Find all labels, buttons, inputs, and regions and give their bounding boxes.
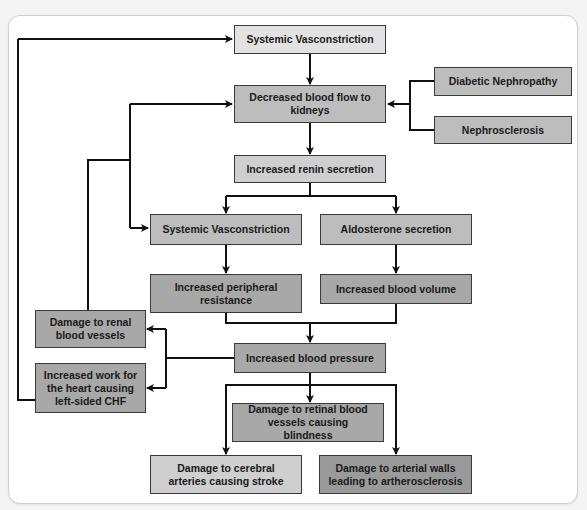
node-nephrosclerosis: Nephrosclerosis <box>434 116 572 144</box>
node-heart-work-chf: Increased work for the heart causing lef… <box>35 363 146 413</box>
node-label: Nephrosclerosis <box>462 124 544 137</box>
node-label: Increased work for the heart causing lef… <box>43 369 139 408</box>
node-label: Increased renin secretion <box>246 163 373 176</box>
node-cerebral-damage: Damage to cerebral arteries causing stro… <box>150 455 302 494</box>
node-label: Damage to cerebral arteries causing stro… <box>166 462 286 488</box>
node-label: Increased peripheral resistance <box>171 281 281 307</box>
node-blood-pressure: Increased blood pressure <box>234 343 386 373</box>
node-label: Systemic Vasconstriction <box>162 223 289 236</box>
node-label: Systemic Vasconstriction <box>246 33 373 46</box>
node-systemic-vasoconstriction-top: Systemic Vasconstriction <box>234 25 386 54</box>
node-arterial-damage: Damage to arterial walls leading to arth… <box>319 455 472 494</box>
node-decreased-blood-flow: Decreased blood flow to kidneys <box>234 85 386 123</box>
node-label: Damage to renal blood vessels <box>46 316 136 342</box>
node-label: Increased blood pressure <box>246 352 374 365</box>
node-systemic-vasoconstriction-mid: Systemic Vasconstriction <box>150 214 302 245</box>
node-diabetic-nephropathy: Diabetic Nephropathy <box>434 67 572 96</box>
node-label: Increased blood volume <box>336 283 456 296</box>
node-renal-vessel-damage: Damage to renal blood vessels <box>35 310 146 348</box>
node-label: Damage to retinal blood vessels causing … <box>243 403 373 442</box>
node-label: Damage to arterial walls leading to arth… <box>326 462 466 488</box>
node-blood-volume: Increased blood volume <box>320 274 472 304</box>
node-aldosterone: Aldosterone secretion <box>320 214 472 245</box>
node-increased-renin: Increased renin secretion <box>234 155 386 183</box>
node-label: Decreased blood flow to kidneys <box>239 91 381 117</box>
node-peripheral-resistance: Increased peripheral resistance <box>150 274 302 313</box>
node-label: Diabetic Nephropathy <box>449 75 558 88</box>
node-retinal-damage: Damage to retinal blood vessels causing … <box>232 403 384 442</box>
node-label: Aldosterone secretion <box>341 223 452 236</box>
